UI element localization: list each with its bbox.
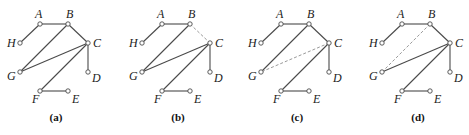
node-label-C: C [93, 36, 102, 50]
panel-label: (d) [411, 111, 425, 124]
edge-B-C [309, 24, 329, 43]
node-D [327, 70, 331, 74]
edge-C-F [162, 43, 210, 91]
edge-C-F [40, 43, 88, 91]
edge-C-F [402, 43, 450, 91]
node-label-B: B [428, 7, 436, 21]
node-H [380, 41, 384, 45]
node-label-C: C [334, 36, 343, 50]
node-label-C: C [215, 36, 224, 50]
node-label-H: H [368, 36, 379, 50]
node-G [259, 70, 263, 74]
panel-label: (c) [291, 111, 304, 124]
edge-C-G [20, 43, 88, 72]
node-label-G: G [7, 69, 16, 83]
edge-C-G-dashed [261, 43, 329, 72]
edge-H-A [142, 24, 162, 43]
node-D [86, 70, 90, 74]
graph-panel-a: ABHCGDFE(a) [6, 7, 102, 124]
node-G [140, 70, 144, 74]
edge-B-G [142, 24, 190, 72]
node-label-C: C [455, 36, 464, 50]
node-label-G: G [369, 69, 378, 83]
node-label-A: A [34, 7, 43, 21]
node-label-F: F [31, 92, 40, 106]
node-label-B: B [188, 7, 196, 21]
node-H [140, 41, 144, 45]
node-A [279, 22, 283, 26]
node-C [448, 41, 452, 45]
edge-B-G [20, 24, 68, 72]
node-E [307, 89, 311, 93]
node-H [18, 41, 22, 45]
node-B [307, 22, 311, 26]
node-E [188, 89, 192, 93]
node-B [188, 22, 192, 26]
edge-C-G [382, 43, 450, 72]
edge-C-G [142, 43, 210, 72]
edge-C-F [281, 43, 329, 91]
node-label-H: H [128, 36, 139, 50]
edge-B-G-dashed [382, 24, 430, 72]
node-E [428, 89, 432, 93]
node-label-A: A [396, 7, 405, 21]
node-label-F: F [393, 92, 402, 106]
node-label-B: B [66, 7, 74, 21]
node-C [208, 41, 212, 45]
panel-label: (a) [50, 111, 63, 124]
node-C [327, 41, 331, 45]
edge-B-C-dashed [190, 24, 210, 43]
node-D [208, 70, 212, 74]
node-E [66, 89, 70, 93]
edge-H-A [261, 24, 281, 43]
node-label-F: F [272, 92, 281, 106]
edge-B-C [430, 24, 450, 43]
node-H [259, 41, 263, 45]
graph-figure: ABHCGDFE(a)ABHCGDFE(b)ABHCGDFE(c)ABHCGDF… [0, 0, 469, 135]
node-B [66, 22, 70, 26]
edge-B-G [261, 24, 309, 72]
node-label-E: E [312, 92, 321, 106]
panel-label: (b) [171, 111, 185, 124]
edge-H-A [20, 24, 40, 43]
graph-panel-b: ABHCGDFE(b) [128, 7, 224, 124]
graph-panel-d: ABHCGDFE(d) [368, 7, 464, 124]
node-B [428, 22, 432, 26]
node-A [160, 22, 164, 26]
node-label-G: G [129, 69, 138, 83]
node-G [380, 70, 384, 74]
node-label-A: A [275, 7, 284, 21]
node-label-E: E [193, 92, 202, 106]
node-label-B: B [307, 7, 315, 21]
node-label-E: E [71, 92, 80, 106]
edge-H-A [382, 24, 402, 43]
node-label-D: D [213, 71, 223, 85]
node-D [448, 70, 452, 74]
node-label-E: E [433, 92, 442, 106]
node-label-H: H [6, 36, 17, 50]
node-label-D: D [91, 71, 101, 85]
node-label-D: D [453, 71, 463, 85]
node-label-F: F [153, 92, 162, 106]
node-G [18, 70, 22, 74]
graph-panel-c: ABHCGDFE(c) [247, 7, 343, 124]
node-A [400, 22, 404, 26]
node-label-H: H [247, 36, 258, 50]
node-label-G: G [248, 69, 257, 83]
node-label-D: D [332, 71, 342, 85]
node-C [86, 41, 90, 45]
node-A [38, 22, 42, 26]
node-label-A: A [156, 7, 165, 21]
edge-B-C [68, 24, 88, 43]
